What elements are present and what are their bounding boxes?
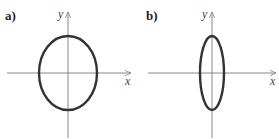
- x-axis-label: x: [269, 74, 276, 88]
- panel-a: a) x y: [5, 7, 131, 138]
- figure: a) x y b) x y: [0, 0, 279, 139]
- panel-b: b) x y: [146, 7, 276, 138]
- y-axis-label: y: [201, 7, 208, 21]
- panel-b-label: b): [146, 8, 158, 23]
- x-axis-label: x: [124, 74, 131, 88]
- panel-a-label: a): [5, 8, 16, 23]
- y-axis-label: y: [57, 7, 64, 21]
